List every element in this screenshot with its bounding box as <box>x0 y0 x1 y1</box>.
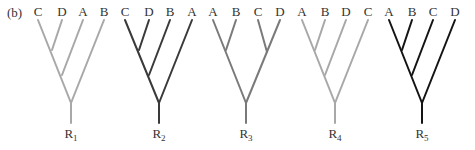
root-label: R4 <box>328 126 341 143</box>
tree-branch <box>258 20 267 52</box>
tree-branch <box>52 20 62 50</box>
root-label: R2 <box>152 126 165 143</box>
tree-branch <box>422 20 455 103</box>
tree-branch <box>159 20 192 103</box>
tree-3 <box>213 20 280 123</box>
leaf-label: C <box>254 4 263 20</box>
leaf-label: C <box>121 4 130 20</box>
leaf-label: A <box>187 4 196 20</box>
leaf-label: A <box>208 4 217 20</box>
tree-5 <box>389 20 455 123</box>
root-label: R1 <box>64 126 77 143</box>
leaf-label: D <box>144 4 153 20</box>
tree-branch <box>62 20 83 75</box>
root-label: R3 <box>239 126 252 143</box>
tree-branch <box>315 20 325 50</box>
tree-branch <box>213 20 246 103</box>
leaf-label: A <box>297 4 306 20</box>
leaf-label: C <box>429 4 438 20</box>
tree-branch <box>325 20 346 75</box>
leaf-label: D <box>275 4 284 20</box>
leaf-label: C <box>364 4 373 20</box>
leaf-label: A <box>78 4 87 20</box>
leaf-label: C <box>34 4 43 20</box>
leaf-label: B <box>100 4 109 20</box>
leaf-label: D <box>57 4 66 20</box>
tree-branch <box>246 20 280 103</box>
tree-branch <box>71 20 104 103</box>
root-label: R5 <box>415 126 428 143</box>
tree-branch <box>402 20 412 50</box>
tree-branch <box>412 20 433 75</box>
leaf-label: D <box>450 4 459 20</box>
tree-branch <box>139 20 149 50</box>
tree-2 <box>125 20 192 123</box>
tree-branch <box>226 20 236 50</box>
leaf-label: D <box>341 4 350 20</box>
tree-branch <box>335 20 368 103</box>
tree-branch <box>38 20 71 103</box>
tree-4 <box>302 20 368 123</box>
leaf-label: B <box>408 4 417 20</box>
tree-branch <box>149 20 170 75</box>
leaf-label: B <box>321 4 330 20</box>
leaf-label: B <box>166 4 175 20</box>
leaf-label: B <box>232 4 241 20</box>
tree-1 <box>38 20 104 123</box>
leaf-label: A <box>384 4 393 20</box>
